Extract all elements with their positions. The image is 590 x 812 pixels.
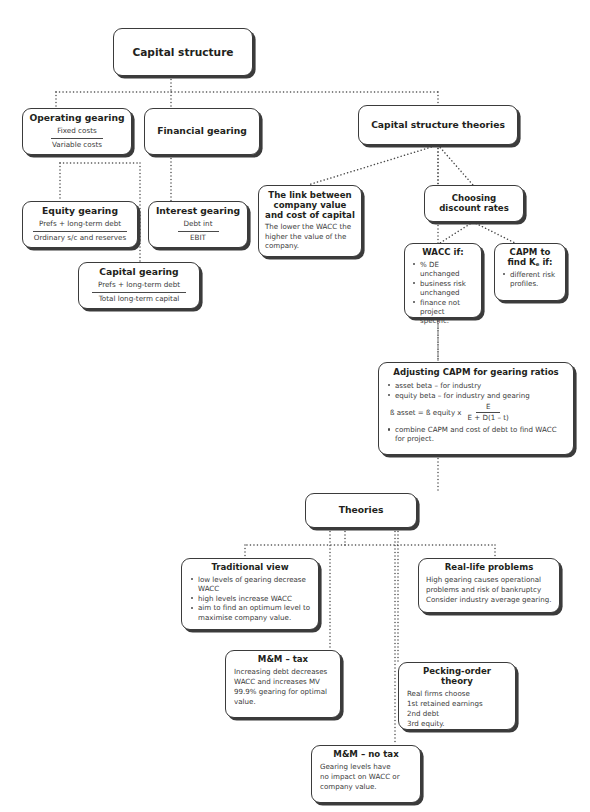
list-item: high levels increase WACC [198,594,311,603]
node-capital-structure-theories[interactable]: Capital structure theories [358,105,518,145]
fraction-operating-gearing: Fixed costs Variable costs [51,126,103,150]
body-line: company value. [320,782,412,792]
node-traditional-view[interactable]: Traditional view low levels of gearing d… [181,558,319,630]
formula-denominator: E + D(1 – t) [468,413,509,423]
node-choosing-discount-rates[interactable]: Choosing discount rates [424,185,524,222]
list-item: finance not project specific. [420,298,475,326]
node-theories[interactable]: Theories [305,493,417,528]
node-title: WACC if: [411,248,475,258]
node-body: Increasing debt decreases WACC and incre… [234,667,332,707]
node-real-life-problems[interactable]: Real-life problems High gearing causes o… [418,558,560,613]
fraction-numerator: Fixed costs [51,126,103,138]
node-capital-gearing[interactable]: Capital gearing Prefs + long-term debt T… [78,262,200,309]
list-item: aim to find an optimum level to maximise… [198,603,311,621]
wacc-if-bullets: % DE unchanged business risk unchanged f… [411,260,475,326]
formula-fraction: E E + D(1 – t) [468,402,509,422]
body-line: Real firms choose [407,689,507,699]
node-title: Capital structure [132,46,233,58]
fraction-denominator: Total long-term capital [92,293,186,304]
body-line: Gearing levels have [320,762,412,772]
node-title: M&M – tax [234,655,332,665]
node-title: Adjusting CAPM for gearing ratios [386,368,566,378]
node-title: Traditional view [189,563,311,573]
beta-formula: ß asset = ß equity x E E + D(1 – t) [390,402,566,422]
node-title: Capital gearing [99,267,178,277]
body-line: WACC and increases MV [234,677,332,687]
node-title: CAPM to find Ke if: [501,248,559,268]
node-capital-structure[interactable]: Capital structure [113,28,253,76]
node-title: Choosing discount rates [431,194,517,214]
body-line: High gearing causes operational [426,575,552,585]
node-equity-gearing[interactable]: Equity gearing Prefs + long-term debt Or… [22,201,138,248]
node-mm-no-tax[interactable]: M&M – no tax Gearing levels have no impa… [311,745,421,803]
node-title: Pecking-order theory [407,667,507,687]
node-title: Operating gearing [29,113,124,123]
node-title: Equity gearing [42,206,118,216]
node-body: Real firms choose 1st retained earnings … [407,689,507,729]
node-mm-tax[interactable]: M&M – tax Increasing debt decreases WACC… [225,650,341,718]
body-line: value. [234,697,332,707]
node-body: High gearing causes operational problems… [426,575,552,605]
fraction-capital-gearing: Prefs + long-term debt Total long-term c… [92,280,186,304]
formula-numerator: E [476,402,500,413]
node-title: Real-life problems [426,563,552,573]
fraction-equity-gearing: Prefs + long-term debt Ordinary s/c and … [33,219,127,243]
body-line: Increasing debt decreases [234,667,332,677]
fraction-denominator: Ordinary s/c and reserves [33,232,127,243]
fraction-numerator: Debt int [178,219,219,231]
node-title: Financial gearing [157,126,247,136]
node-title: The link between company value and cost … [265,191,355,220]
body-line: no impact on WACC or [320,772,412,782]
list-item: asset beta – for industry [395,381,566,390]
node-adjusting-capm[interactable]: Adjusting CAPM for gearing ratios asset … [378,362,574,455]
fraction-numerator: Prefs + long-term debt [92,280,186,292]
node-title-subscript: e [536,261,540,267]
body-line: problems and risk of bankruptcy [426,585,552,595]
node-wacc-if[interactable]: WACC if: % DE unchanged business risk un… [404,243,482,318]
list-item: business risk unchanged [420,279,475,297]
node-title: Capital structure theories [371,120,505,130]
fraction-numerator: Prefs + long-term debt [33,219,127,231]
fraction-denominator: EBIT [178,232,219,243]
list-item: low levels of gearing decrease WACC [198,575,311,593]
node-title-tail: if: [539,257,552,267]
body-line: Consider industry average gearing. [426,595,552,605]
list-item: % DE unchanged [420,260,475,278]
formula-lhs: ß asset = ß equity x [390,408,462,417]
body-line: 1st retained earnings [407,699,507,709]
body-line: 99.9% gearing for optimal [234,687,332,697]
node-title: M&M – no tax [320,750,412,760]
fraction-denominator: Variable costs [51,139,103,150]
node-title: Interest gearing [156,206,240,216]
node-title: Theories [339,505,384,515]
adjusting-capm-bullets: asset beta – for industry equity beta – … [386,381,566,400]
fraction-interest-gearing: Debt int EBIT [178,219,219,243]
body-line: 2nd debt [407,709,507,719]
node-link-company-value[interactable]: The link between company value and cost … [258,185,362,257]
adjusting-capm-bullets-2: combine CAPM and cost of debt to find WA… [386,425,566,444]
list-item: different risk profiles. [510,270,559,288]
body-line: 3rd equity. [407,719,507,729]
node-financial-gearing[interactable]: Financial gearing [144,108,260,155]
node-pecking-order-theory[interactable]: Pecking-order theory Real firms choose 1… [398,662,516,730]
list-item: combine CAPM and cost of debt to find WA… [395,425,566,443]
node-capm-find-ke[interactable]: CAPM to find Ke if: different risk profi… [494,243,566,301]
node-body: The lower the WACC the higher the value … [265,222,355,250]
list-item: equity beta – for industry and gearing [395,391,566,400]
node-interest-gearing[interactable]: Interest gearing Debt int EBIT [148,201,248,248]
node-operating-gearing[interactable]: Operating gearing Fixed costs Variable c… [22,108,132,155]
capm-bullets: different risk profiles. [501,270,559,289]
mind-map-canvas: Capital structure Operating gearing Fixe… [0,0,590,812]
node-body: Gearing levels have no impact on WACC or… [320,762,412,792]
traditional-view-bullets: low levels of gearing decrease WACC high… [189,575,311,623]
